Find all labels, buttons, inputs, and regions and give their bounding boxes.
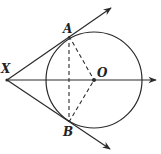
label-o: O [97,66,108,80]
label-b: B [62,125,73,139]
tangent-ray-xb [7,80,110,149]
radius-ao [69,36,94,80]
tangent-diagram: X A O B [0,0,161,154]
radius-bo [69,80,94,122]
point-o [92,78,96,82]
tangent-ray-xa [7,8,111,80]
label-a: A [62,22,72,36]
label-x: X [0,62,11,76]
point-x [5,78,8,81]
